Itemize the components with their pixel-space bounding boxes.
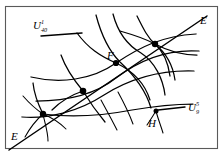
label-edge-bottom-left: E [10,130,18,142]
node-center-F [113,60,119,66]
label-sheet-lower-right-sub: 9 [196,108,199,115]
figure-container: E E F H U 1 40 U 5 9 [0,0,223,156]
label-sheet-lower-right: U 5 9 [188,100,199,115]
node-lower-left [40,111,46,117]
node-mid-left [80,88,87,95]
label-sheet-lower-right-sup: 5 [196,100,199,107]
label-vertex-F: F [106,49,114,61]
label-sheet-upper-left-sup: 1 [41,18,44,25]
label-vertex-H: H [147,117,157,129]
node-upper-right [152,41,158,47]
diagram-canvas: E E F H U 1 40 U 5 9 [0,0,223,156]
label-sheet-upper-left-sub: 40 [41,26,48,33]
label-edge-top-right: E [199,14,207,26]
node-H [154,109,159,114]
